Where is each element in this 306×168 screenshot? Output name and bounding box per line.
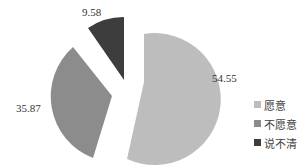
label-unsure: 9.58 [82, 6, 101, 18]
slice-willing [127, 33, 221, 165]
legend-swatch [254, 139, 261, 146]
legend-swatch [254, 120, 261, 127]
legend-label: 说不清 [264, 135, 297, 151]
legend-item-unwilling: 不愿意 [254, 114, 297, 133]
legend-label: 愿意 [264, 97, 286, 113]
legend: 愿意 不愿意 说不清 [254, 95, 297, 152]
legend-label: 不愿意 [264, 116, 297, 132]
legend-item-unsure: 说不清 [254, 133, 297, 152]
legend-item-willing: 愿意 [254, 95, 297, 114]
slice-unsure [88, 17, 124, 80]
label-unwilling: 35.87 [16, 102, 41, 114]
slice-unwilling [51, 47, 112, 158]
legend-swatch [254, 101, 261, 108]
label-willing: 54.55 [212, 72, 237, 84]
